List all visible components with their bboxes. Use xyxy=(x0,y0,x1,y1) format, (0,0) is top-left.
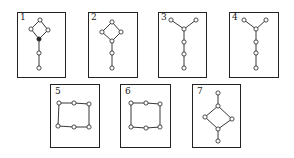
figure-svg: 1234567 xyxy=(0,0,294,158)
graph-panel-1: 1 xyxy=(18,12,66,78)
graph-vertex xyxy=(242,18,246,22)
graph-vertex xyxy=(129,101,133,105)
graph-vertex xyxy=(129,125,133,129)
panel-number: 1 xyxy=(20,12,26,22)
graph-vertex xyxy=(110,39,114,43)
graph-vertex xyxy=(100,30,104,34)
graph-figure: 1234567 xyxy=(0,0,294,158)
graph-vertex xyxy=(144,101,148,105)
graph-vertex xyxy=(72,101,76,105)
graph-vertex xyxy=(254,40,258,44)
graph-vertex xyxy=(119,30,123,34)
graph-panel-2: 2 xyxy=(89,12,138,78)
graph-vertex xyxy=(264,18,268,22)
graph-vertex xyxy=(110,66,114,70)
graph-vertex xyxy=(72,125,76,129)
graph-vertex xyxy=(194,18,198,22)
graph-vertex xyxy=(216,139,220,143)
graph-vertex xyxy=(37,51,41,55)
graph-panel-6: 6 xyxy=(121,85,171,148)
panel-number: 6 xyxy=(125,86,131,96)
graph-vertex xyxy=(203,115,207,119)
graph-vertex xyxy=(110,20,114,24)
panel-number: 7 xyxy=(197,86,203,96)
graph-vertex xyxy=(46,28,50,32)
panel-number: 2 xyxy=(91,12,97,22)
graph-vertex xyxy=(87,102,91,106)
graph-vertex xyxy=(230,117,234,121)
graph-vertex xyxy=(254,51,258,55)
panel-number: 3 xyxy=(161,12,167,22)
graph-vertex xyxy=(182,40,186,44)
graph-vertex xyxy=(158,125,162,129)
graph-vertex xyxy=(182,27,186,31)
graph-vertex xyxy=(38,18,42,22)
graph-panel-7: 7 xyxy=(193,85,241,148)
graph-vertex xyxy=(254,66,258,70)
panel-number: 5 xyxy=(55,86,61,96)
graph-vertex xyxy=(57,101,61,105)
filled-vertex xyxy=(37,37,41,41)
graph-vertex xyxy=(29,27,33,31)
graph-panel-4: 4 xyxy=(230,12,279,78)
graph-panel-3: 3 xyxy=(159,12,207,78)
panel-number: 4 xyxy=(232,12,238,22)
graph-vertex xyxy=(216,127,220,131)
graph-vertex xyxy=(56,124,60,128)
graph-vertex xyxy=(182,66,186,70)
graph-vertex xyxy=(216,104,220,108)
graph-vertex xyxy=(87,125,91,129)
graph-vertex xyxy=(182,52,186,56)
graph-vertex xyxy=(158,102,162,106)
graph-vertex xyxy=(37,66,41,70)
graph-vertex xyxy=(169,18,173,22)
graph-vertex xyxy=(144,126,148,130)
graph-vertex xyxy=(110,51,114,55)
graph-vertex xyxy=(216,91,220,95)
graph-panel-5: 5 xyxy=(51,85,100,148)
graph-vertex xyxy=(254,27,258,31)
